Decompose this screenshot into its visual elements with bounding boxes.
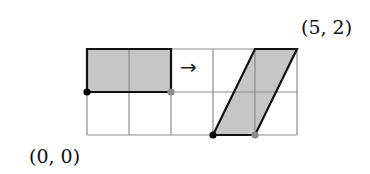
origin-coordinate-label: (0, 0) bbox=[29, 147, 80, 166]
image-black-point bbox=[209, 131, 216, 138]
end-coordinate-label: (5, 2) bbox=[301, 18, 352, 37]
transform-arrow-icon: → bbox=[180, 57, 197, 77]
image-gray-point bbox=[251, 131, 258, 138]
source-gray-point bbox=[167, 88, 174, 95]
source-black-point bbox=[83, 88, 90, 95]
